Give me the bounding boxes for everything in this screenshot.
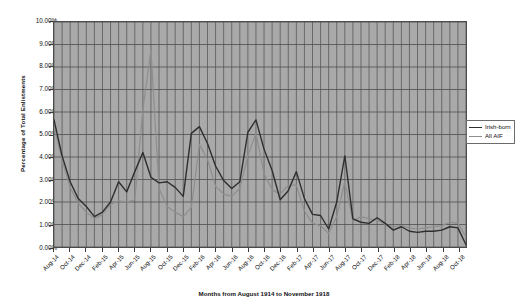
x-axis-tick-mark (134, 248, 135, 252)
legend-item-label: Irish-born (485, 124, 511, 130)
x-axis-tick-mark (394, 248, 395, 252)
x-axis-tick-mark (280, 248, 281, 252)
x-axis-tick-mark (118, 248, 119, 252)
x-axis-tick-mark (232, 248, 233, 252)
x-axis-tick-mark (167, 248, 168, 252)
x-axis-tick-mark (410, 248, 411, 252)
x-axis-tick-mark (443, 248, 444, 252)
x-axis-tick-mark (459, 248, 460, 252)
chart-legend: Irish-bornAll AIF (466, 120, 515, 144)
x-axis-title: Months from August 1914 to November 1918 (0, 290, 528, 297)
x-axis-tick-mark (329, 248, 330, 252)
x-axis-tick-mark (345, 248, 346, 252)
x-axis-tick-mark (426, 248, 427, 252)
legend-line-swatch-icon (469, 136, 482, 137)
x-axis-tick-mark (264, 248, 265, 252)
x-axis-tick-mark (215, 248, 216, 252)
x-axis-tick-mark (53, 248, 54, 252)
x-axis-tick-mark (361, 248, 362, 252)
x-axis-tick-mark (102, 248, 103, 252)
legend-line-swatch-icon (469, 127, 482, 128)
x-axis-tick-mark (69, 248, 70, 252)
x-axis-tick-mark (150, 248, 151, 252)
x-axis-tick-mark (313, 248, 314, 252)
x-axis-tick-mark (183, 248, 184, 252)
x-axis-tick-mark (378, 248, 379, 252)
plot-area (53, 21, 467, 248)
line-chart: Percentage of Total Enlistments 10.00%9.… (0, 0, 528, 305)
series-line-all-aif (54, 50, 466, 237)
legend-item[interactable]: All AIF (469, 132, 511, 141)
x-axis-tick-mark (85, 248, 86, 252)
x-axis-tick-mark (248, 248, 249, 252)
x-axis-tick-mark (199, 248, 200, 252)
data-series-layer (54, 22, 466, 247)
x-axis-tick-mark (297, 248, 298, 252)
legend-item[interactable]: Irish-born (469, 123, 511, 132)
legend-item-label: All AIF (485, 133, 503, 139)
